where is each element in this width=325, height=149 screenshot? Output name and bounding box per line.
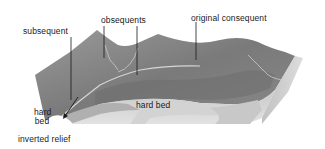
label-inverted-relief: inverted relief [18,135,71,144]
label-obsequents: obsequents [101,16,146,25]
label-hard-bed-center: hard bed [136,101,170,110]
label-hard-bed-left-line2: bed [34,117,50,126]
block-diagram [0,0,325,149]
label-subsequent: subsequent [23,27,68,36]
label-original-consequent: original consequent [191,14,267,23]
label-hard-bed-left: hard bed [34,108,50,126]
